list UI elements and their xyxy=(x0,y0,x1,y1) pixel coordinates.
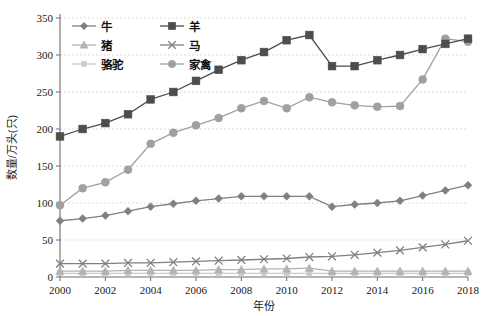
x-tick-label: 2004 xyxy=(140,284,163,296)
marker-circle xyxy=(79,184,87,192)
marker-circle xyxy=(396,102,404,110)
marker-circle xyxy=(373,103,381,111)
legend-item-羊[interactable]: 羊 xyxy=(160,20,201,33)
marker-circle xyxy=(328,98,336,106)
marker-circle xyxy=(351,101,359,109)
series-马 xyxy=(56,237,472,268)
marker-square xyxy=(305,31,313,39)
x-tick-label: 2010 xyxy=(276,284,299,296)
marker-circle xyxy=(237,104,245,112)
marker-circle xyxy=(56,201,64,209)
marker-circle xyxy=(305,93,313,101)
marker-square xyxy=(168,22,175,29)
marker-small-square xyxy=(82,62,87,67)
y-tick-label: 200 xyxy=(37,123,54,135)
marker-square xyxy=(351,62,359,70)
marker-diamond xyxy=(192,197,200,205)
marker-diamond xyxy=(351,200,359,208)
x-tick-label: 2014 xyxy=(366,284,389,296)
x-tick-label: 2002 xyxy=(94,284,116,296)
x-tick-label: 2012 xyxy=(321,284,343,296)
marker-square xyxy=(464,35,472,43)
legend-label-骆驼: 骆驼 xyxy=(101,58,124,71)
series-羊 xyxy=(56,31,472,140)
marker-diamond xyxy=(419,192,427,200)
marker-diamond xyxy=(328,203,336,211)
marker-square xyxy=(56,133,64,141)
marker-diamond xyxy=(260,192,268,200)
marker-square xyxy=(396,51,404,59)
marker-diamond xyxy=(80,22,88,30)
legend-label-猪: 猪 xyxy=(100,39,113,52)
marker-circle xyxy=(192,121,200,129)
marker-diamond xyxy=(79,215,87,223)
marker-square xyxy=(169,88,177,96)
marker-square xyxy=(147,96,155,104)
series-line-马 xyxy=(60,241,468,264)
marker-circle xyxy=(168,60,176,68)
y-tick-label: 250 xyxy=(37,86,54,98)
legend-item-牛[interactable]: 牛 xyxy=(72,20,113,33)
x-tick-label: 2018 xyxy=(457,284,480,296)
marker-square xyxy=(101,119,109,127)
marker-diamond xyxy=(169,200,177,208)
legend-item-马[interactable]: 马 xyxy=(160,40,200,52)
chart-canvas: 0501001502002503003502000200220042006200… xyxy=(0,0,483,316)
marker-diamond xyxy=(124,207,132,215)
x-axis-title: 年份 xyxy=(253,299,275,312)
y-tick-label: 50 xyxy=(42,234,54,246)
marker-circle xyxy=(169,129,177,137)
legend-label-牛: 牛 xyxy=(101,20,113,33)
marker-square xyxy=(441,40,449,48)
legend-item-骆驼[interactable]: 骆驼 xyxy=(72,58,124,71)
marker-diamond xyxy=(396,197,404,205)
x-tick-label: 2006 xyxy=(185,284,208,296)
legend-label-家禽: 家禽 xyxy=(189,58,212,71)
y-tick-label: 300 xyxy=(37,49,54,61)
marker-circle xyxy=(101,178,109,186)
marker-square xyxy=(215,66,223,74)
marker-square xyxy=(237,56,245,64)
marker-diamond xyxy=(441,186,449,194)
marker-square xyxy=(283,36,291,44)
marker-square xyxy=(419,45,427,53)
y-tick-label: 0 xyxy=(48,271,54,283)
legend: 牛羊猪马骆驼家禽 xyxy=(72,20,212,71)
marker-diamond xyxy=(56,217,64,225)
y-axis-title-group: 数量/万头(只) xyxy=(6,115,18,180)
marker-circle xyxy=(124,166,132,174)
marker-square xyxy=(79,125,87,133)
marker-diamond xyxy=(373,199,381,207)
y-tick-label: 350 xyxy=(37,12,54,24)
marker-diamond xyxy=(305,192,313,200)
x-tick-label: 2008 xyxy=(230,284,253,296)
marker-circle xyxy=(419,75,427,83)
marker-diamond xyxy=(101,212,109,220)
marker-circle xyxy=(260,97,268,105)
marker-circle xyxy=(283,104,291,112)
legend-item-家禽[interactable]: 家禽 xyxy=(160,58,212,71)
y-tick-label: 100 xyxy=(37,197,54,209)
marker-square xyxy=(260,48,268,56)
marker-square xyxy=(373,56,381,64)
y-axis-title: 数量/万头(只) xyxy=(6,115,18,180)
marker-square xyxy=(328,62,336,70)
legend-label-马: 马 xyxy=(189,40,200,52)
marker-square xyxy=(124,110,132,118)
marker-diamond xyxy=(283,192,291,200)
line-chart-figure: 0501001502002503003502000200220042006200… xyxy=(0,0,483,316)
x-tick-label: 2016 xyxy=(412,284,435,296)
marker-circle xyxy=(215,114,223,122)
marker-square xyxy=(192,77,200,85)
legend-item-猪[interactable]: 猪 xyxy=(72,39,113,52)
marker-diamond xyxy=(147,203,155,211)
marker-diamond xyxy=(237,192,245,200)
x-tick-label: 2000 xyxy=(49,284,72,296)
marker-diamond xyxy=(215,195,223,203)
y-tick-label: 150 xyxy=(37,160,54,172)
marker-diamond xyxy=(464,181,472,189)
marker-circle xyxy=(147,140,155,148)
legend-label-羊: 羊 xyxy=(189,20,201,33)
